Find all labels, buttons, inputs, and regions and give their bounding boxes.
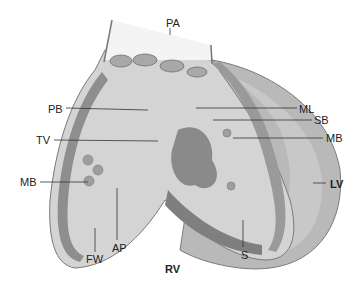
pulmonary-artery xyxy=(104,20,212,60)
label-pa: PA xyxy=(166,17,180,29)
label-s: S xyxy=(241,249,248,261)
label-lv: LV xyxy=(330,178,343,190)
label-mb-right: MB xyxy=(326,132,343,144)
label-pb: PB xyxy=(48,103,63,115)
label-ap: AP xyxy=(112,242,127,254)
heart-diagram: PA PB ML SB TV MB MB LV AP FW S RV xyxy=(0,0,363,288)
label-tv: TV xyxy=(36,134,50,146)
label-mb-left: MB xyxy=(20,176,37,188)
heart-illustration xyxy=(0,0,363,288)
label-fw: FW xyxy=(86,253,103,265)
label-sb: SB xyxy=(314,114,329,126)
label-ml: ML xyxy=(299,103,314,115)
label-rv: RV xyxy=(165,263,180,275)
